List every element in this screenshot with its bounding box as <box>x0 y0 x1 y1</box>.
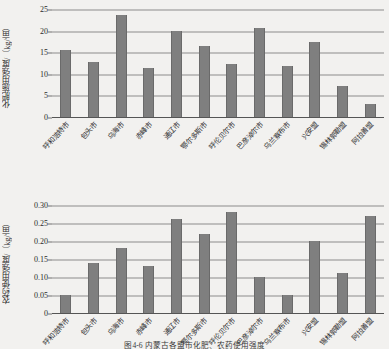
bar[interactable] <box>337 273 348 313</box>
fertilizer-bars <box>52 10 384 117</box>
bar[interactable] <box>226 64 237 117</box>
bar[interactable] <box>254 277 265 313</box>
bar-slot <box>301 206 329 313</box>
bar-slot <box>273 206 301 313</box>
figure-caption: 图4-6 内蒙古各盟市化肥、农药使用强度 <box>0 339 389 349</box>
bar-slot <box>301 10 329 117</box>
fertilizer-x-axis-line <box>52 117 384 118</box>
bar[interactable] <box>88 62 99 117</box>
fertilizer-chart: 化肥施用强度/（kg/亩） 0510152025 呼和浩特市包头市乌海市赤峰市通… <box>0 0 389 176</box>
bar-slot <box>356 206 384 313</box>
bar-slot <box>135 206 163 313</box>
x-axis-label: 赤峰市 <box>135 121 154 141</box>
x-label-slot: 阿拉善盟 <box>356 119 384 171</box>
pesticide-chart: 农药使用强度/（kg/亩） 00.050.100.150.200.250.30 … <box>0 176 389 349</box>
bar[interactable] <box>199 46 210 117</box>
bar-slot <box>329 206 357 313</box>
bar-slot <box>163 206 191 313</box>
fertilizer-y-axis-label: 化肥施用强度/（kg/亩） <box>0 6 16 126</box>
x-label-slot: 赤峰市 <box>135 119 163 171</box>
pesticide-y-ticks: 00.050.100.150.200.250.30 <box>18 206 52 314</box>
bar-slot <box>163 10 191 117</box>
bar-slot <box>107 206 135 313</box>
bar[interactable] <box>116 15 127 117</box>
bar-slot <box>329 10 357 117</box>
pesticide-bars <box>52 206 384 313</box>
x-axis-label: 包头市 <box>79 317 98 337</box>
fertilizer-y-ticks: 0510152025 <box>18 10 52 118</box>
bar-slot <box>80 10 108 117</box>
bar[interactable] <box>171 31 182 117</box>
x-axis-label: 乌海市 <box>107 121 126 141</box>
bar[interactable] <box>143 68 154 117</box>
bar[interactable] <box>116 248 127 313</box>
bar-slot <box>218 10 246 117</box>
x-label-slot: 呼和浩特市 <box>52 119 80 171</box>
bar[interactable] <box>282 66 293 117</box>
y-tick-label: 25 <box>40 6 48 14</box>
bar[interactable] <box>282 295 293 313</box>
y-tick-label: 0.05 <box>34 292 48 300</box>
bar-slot <box>52 10 80 117</box>
bar-slot <box>246 206 274 313</box>
y-tick-label: 0.30 <box>34 202 48 210</box>
y-tick-label: 10 <box>40 71 48 79</box>
x-axis-label: 赤峰市 <box>135 317 154 337</box>
pesticide-plot-area: 00.050.100.150.200.250.30 <box>18 206 384 314</box>
y-tick-label: 15 <box>40 49 48 57</box>
x-axis-label: 通辽市 <box>162 121 181 141</box>
bar[interactable] <box>309 42 320 117</box>
bar-slot <box>356 10 384 117</box>
bar[interactable] <box>60 50 71 117</box>
y-tick-label: 0.10 <box>34 274 48 282</box>
bar[interactable] <box>199 234 210 313</box>
bar[interactable] <box>309 241 320 313</box>
bar-slot <box>190 206 218 313</box>
pesticide-plot <box>52 206 384 314</box>
y-tick-label: 0.25 <box>34 220 48 228</box>
x-axis-label: 通辽市 <box>162 317 181 337</box>
x-axis-label: 乌海市 <box>107 317 126 337</box>
bar-slot <box>218 206 246 313</box>
bar[interactable] <box>254 28 265 117</box>
x-label-slot: 锡林郭勒盟 <box>329 119 357 171</box>
x-axis-label: 兴安盟 <box>301 317 320 337</box>
bar[interactable] <box>365 104 376 117</box>
fertilizer-plot <box>52 10 384 118</box>
y-tick-label: 0.15 <box>34 256 48 264</box>
bar-slot <box>52 206 80 313</box>
bar-slot <box>107 10 135 117</box>
bar[interactable] <box>337 86 348 117</box>
bar[interactable] <box>171 219 182 313</box>
fertilizer-plot-area: 0510152025 <box>18 10 384 118</box>
bar-slot <box>273 10 301 117</box>
y-tick-label: 20 <box>40 28 48 36</box>
bar[interactable] <box>143 266 154 313</box>
y-tick-label: 0.20 <box>34 238 48 246</box>
bar-slot <box>190 10 218 117</box>
bar-slot <box>246 10 274 117</box>
x-axis-label: 兴安盟 <box>301 121 320 141</box>
bar-slot <box>135 10 163 117</box>
bar[interactable] <box>226 212 237 313</box>
x-label-slot: 包头市 <box>80 119 108 171</box>
x-label-slot: 乌海市 <box>107 119 135 171</box>
x-label-slot: 乌兰察布市 <box>273 119 301 171</box>
x-axis-label: 呼和浩特市 <box>42 121 71 152</box>
bar[interactable] <box>365 216 376 313</box>
figure-container: 化肥施用强度/（kg/亩） 0510152025 呼和浩特市包头市乌海市赤峰市通… <box>0 0 389 349</box>
bar[interactable] <box>60 295 71 313</box>
bar-slot <box>80 206 108 313</box>
x-axis-label: 包头市 <box>79 121 98 141</box>
pesticide-x-axis-line <box>52 313 384 314</box>
pesticide-y-axis-label: 农药使用强度/（kg/亩） <box>0 202 16 322</box>
fertilizer-x-labels: 呼和浩特市包头市乌海市赤峰市通辽市鄂尔多斯市呼伦贝尔市巴彦淖尔市乌兰察布市兴安盟… <box>52 119 384 171</box>
bar[interactable] <box>88 263 99 313</box>
